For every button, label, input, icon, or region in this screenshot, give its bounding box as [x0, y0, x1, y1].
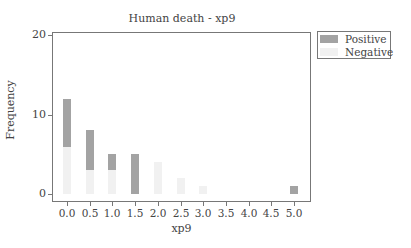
legend-item-positive: Positive: [320, 33, 386, 45]
legend-label-positive: Positive: [345, 33, 386, 45]
x-tick: [67, 202, 68, 206]
x-tick: [112, 202, 113, 206]
x-tick: [158, 202, 159, 206]
x-tick: [249, 202, 250, 206]
legend-label-negative: Negative: [345, 46, 393, 58]
y-tick: [48, 115, 52, 116]
y-axis-title: Frequency: [4, 70, 17, 150]
legend: Positive Negative: [317, 31, 391, 59]
x-tick: [135, 202, 136, 206]
bar-negative: [199, 186, 207, 194]
x-tick: [226, 202, 227, 206]
x-tick-label: 5.0: [279, 207, 309, 219]
bar-positive: [131, 154, 139, 194]
y-tick-label: 0: [26, 187, 46, 200]
bar-negative: [154, 162, 162, 194]
x-tick: [271, 202, 272, 206]
y-tick: [48, 35, 52, 36]
legend-swatch-positive: [320, 35, 338, 43]
x-tick: [90, 202, 91, 206]
x-tick: [294, 202, 295, 206]
y-tick-label: 20: [26, 28, 46, 41]
legend-swatch-negative: [320, 48, 338, 56]
bar-negative: [63, 146, 71, 194]
bar-positive: [108, 154, 116, 170]
y-tick-label: 10: [26, 108, 46, 121]
chart-title: Human death - xp9: [52, 12, 312, 25]
x-tick: [203, 202, 204, 206]
bar-negative: [177, 178, 185, 194]
y-tick: [48, 194, 52, 195]
bar-positive: [63, 99, 71, 147]
bar-negative: [86, 170, 94, 194]
legend-item-negative: Negative: [320, 46, 393, 58]
bar-negative: [108, 170, 116, 194]
x-axis-title: xp9: [52, 222, 311, 235]
x-tick: [181, 202, 182, 206]
bar-positive: [86, 130, 94, 170]
bar-positive: [290, 186, 298, 194]
